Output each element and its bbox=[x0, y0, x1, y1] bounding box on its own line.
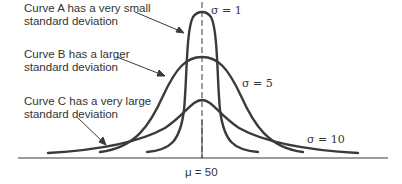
annotation-b-line1: Curve B has a larger bbox=[24, 48, 129, 61]
annotation-c-line1: Curve C has a very large bbox=[24, 95, 151, 108]
annotation-curve-a: Curve A has a very small standard deviat… bbox=[24, 2, 151, 28]
sigma-label-b: σ = 5 bbox=[242, 77, 273, 90]
annotation-curve-c: Curve C has a very large standard deviat… bbox=[24, 95, 151, 121]
arrow-c bbox=[78, 118, 106, 145]
annotation-a-line2: standard deviation bbox=[24, 15, 151, 28]
annotation-a-line1: Curve A has a very small bbox=[24, 2, 151, 15]
annotation-c-line2: standard deviation bbox=[24, 108, 151, 121]
mean-label: μ = 50 bbox=[185, 166, 218, 178]
sigma-label-c: σ = 10 bbox=[307, 133, 345, 146]
annotation-b-line2: standard deviation bbox=[24, 61, 129, 74]
annotation-curve-b: Curve B has a larger standard deviation bbox=[24, 48, 129, 74]
sigma-label-a: σ = 1 bbox=[211, 4, 242, 17]
